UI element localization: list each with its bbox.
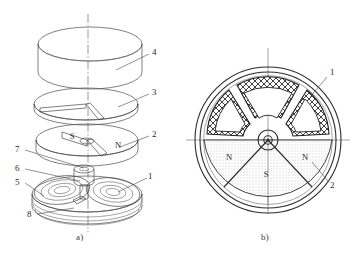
part-hub-collar bbox=[74, 165, 94, 186]
callout-a-5: 5 bbox=[15, 177, 20, 187]
callout-a-4: 4 bbox=[152, 47, 157, 57]
callout-a-2: 2 bbox=[152, 129, 157, 139]
magnet-pole-label-s-a: S bbox=[70, 131, 75, 141]
callout-b-2: 2 bbox=[330, 180, 335, 190]
callout-leaders-a bbox=[25, 54, 149, 214]
technical-figure: S N bbox=[0, 0, 351, 260]
view-a-exploded: S N bbox=[15, 14, 157, 232]
callout-a-6: 6 bbox=[15, 163, 20, 173]
pole-label-n-left: N bbox=[226, 152, 232, 162]
part-flat-spiral-coil-right bbox=[84, 174, 141, 209]
pole-label-s-center: S bbox=[264, 169, 269, 179]
callout-a-7: 7 bbox=[15, 144, 20, 154]
part-magnet-rotor-disc-a: S N bbox=[36, 124, 138, 166]
callout-a-3: 3 bbox=[152, 87, 157, 97]
pole-label-n-right: N bbox=[302, 152, 308, 162]
caption-b: b) bbox=[261, 232, 269, 242]
callout-a-8: 8 bbox=[27, 209, 32, 219]
part-top-housing-cylinder bbox=[38, 27, 142, 89]
part-base-plate-stack bbox=[32, 176, 142, 225]
part-upper-disc-plate bbox=[34, 88, 138, 125]
callout-b-1: 1 bbox=[330, 67, 335, 77]
caption-a: a) bbox=[76, 232, 83, 242]
figure-svg: S N bbox=[0, 0, 351, 260]
magnet-pole-label-n-a: N bbox=[115, 140, 121, 150]
callout-a-1: 1 bbox=[148, 171, 153, 181]
view-b-plan: N S N 1 2 bbox=[186, 48, 350, 214]
stator-coil-center bbox=[237, 77, 299, 118]
